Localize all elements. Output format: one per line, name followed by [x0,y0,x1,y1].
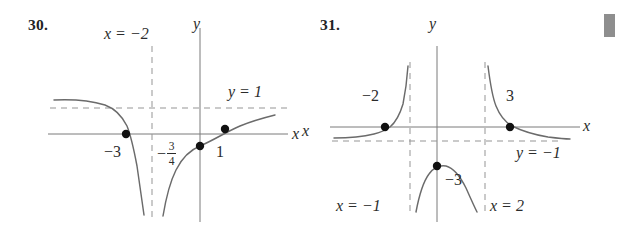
fraction-numerator-30: 3 [168,140,176,152]
label-x-axis-right-31: x [583,118,590,134]
point-x-intercept-1 [221,125,229,133]
figure-page: 30. x = −2 y y = 1 −3 − 3 [0,0,627,241]
label-y-intercept-neg3-31: −3 [445,172,462,188]
figure-problem-31: 31. y −2 3 x x [300,0,627,241]
fraction-stack-30: 3 4 [167,140,176,168]
label-x-intercept-1-30: 1 [216,144,224,160]
label-x-axis-left-31: x [302,123,309,139]
scan-artifact-mark [604,14,615,37]
point-y-intercept-neg3-31 [433,162,441,170]
label-x-intercept-neg2-31: −2 [362,88,379,104]
figure-problem-30: 30. x = −2 y y = 1 −3 − 3 [0,0,313,241]
label-x-intercept-neg3-30: −3 [104,144,121,160]
label-y-axis-31: y [429,16,436,32]
point-x-intercept-neg3 [122,130,130,138]
label-vertical-asymptote-left-31: x = −1 [336,198,381,214]
point-y-intercept-neg-three-quarters [196,142,204,150]
fraction-sign-30: − [157,146,166,162]
curve-right-branch-30 [163,115,275,216]
label-horizontal-asymptote-31: y = −1 [516,145,561,161]
curve-left-branch-30 [54,100,144,215]
point-x-intercept-neg2-31 [381,123,389,131]
curve-far-right-branch-31 [488,66,570,139]
fraction-denominator-30: 4 [168,155,176,167]
label-x-intercept-3-31: 3 [506,88,514,104]
label-vertical-asymptote-right-31: x = 2 [490,198,524,214]
fraction-bar-30 [167,153,176,154]
label-y-intercept-fraction-30: − 3 4 [157,140,176,168]
label-y-axis-30: y [193,16,200,32]
point-x-intercept-3-31 [506,123,514,131]
label-x-axis-30: x [292,126,299,142]
label-horizontal-asymptote-30: y = 1 [228,84,262,100]
graph-30-plot [0,0,313,241]
label-vertical-asymptote-30: x = −2 [104,26,149,42]
